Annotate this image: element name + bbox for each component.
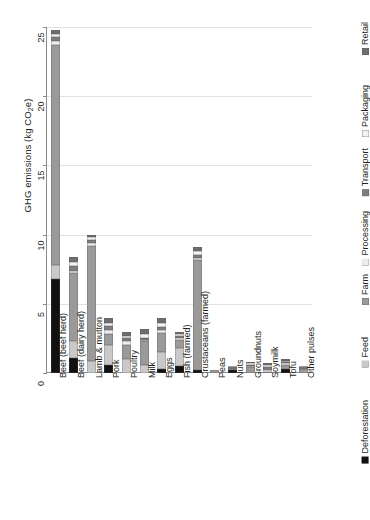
x-axis-category-label: Crustaceans (farmed) xyxy=(201,291,210,378)
chart-legend: DeforestationFeedFarmProcessingTransport… xyxy=(333,0,363,520)
x-axis-category-label: Groundnuts xyxy=(254,331,263,378)
legend-label: Farm xyxy=(361,274,370,295)
legend-swatch-icon xyxy=(362,361,369,368)
bar-segment xyxy=(51,265,60,279)
y-axis-title-post: e) xyxy=(22,99,33,108)
x-axis-category-label: Tofu xyxy=(289,361,298,378)
x-axis-category-label: Beef (dairy herd) xyxy=(77,311,86,378)
legend-item[interactable]: Retail xyxy=(361,22,370,55)
legend-label: Transport xyxy=(361,148,370,186)
x-axis-category-label: Lamb & mutton xyxy=(95,317,104,378)
legend-item[interactable]: Transport xyxy=(361,148,370,196)
legend-label: Deforestation xyxy=(361,400,370,454)
y-axis-tick-label: 20 xyxy=(37,96,46,118)
x-axis-category-label: Pork xyxy=(112,359,121,378)
x-axis-category-label: Beef (beef herd) xyxy=(59,313,68,378)
x-axis-category-label: Poultry xyxy=(130,350,139,378)
x-axis-category-label: Other pulses xyxy=(307,327,316,378)
x-axis-category-label: Eggs xyxy=(165,357,174,378)
x-axis-category-label: Peas xyxy=(218,357,227,378)
legend-swatch-icon xyxy=(362,130,369,137)
legend-item[interactable]: Farm xyxy=(361,274,370,305)
x-axis-category-labels: Beef (beef herd)Beef (dairy herd)Lamb & … xyxy=(47,376,312,516)
x-axis-category-label: Soymilk xyxy=(271,346,280,378)
y-axis-title: GHG emissions (kg CO2e) xyxy=(22,71,33,241)
bar-segment xyxy=(104,334,113,345)
legend-label: Packaging xyxy=(361,85,370,127)
legend-swatch-icon xyxy=(362,189,369,196)
legend-label: Processing xyxy=(361,211,370,256)
y-axis-tick-label: 25 xyxy=(37,27,46,49)
bar-segment xyxy=(157,333,166,352)
legend-swatch-icon xyxy=(362,298,369,305)
y-axis-tick-label: 5 xyxy=(37,303,46,325)
x-axis-category-label: Milk xyxy=(148,362,157,378)
legend-label: Retail xyxy=(361,22,370,45)
legend-swatch-icon xyxy=(362,48,369,55)
legend-swatch-icon xyxy=(362,259,369,266)
x-axis-category-label: Fish (farmed) xyxy=(183,324,192,378)
y-axis-title-pre: GHG emissions (kg CO xyxy=(22,111,33,212)
plot-area: 0510152025 xyxy=(47,27,312,373)
y-axis-title-subscript: 2 xyxy=(26,107,33,111)
legend-item[interactable]: Deforestation xyxy=(361,400,370,464)
legend-item[interactable]: Feed xyxy=(361,337,370,368)
y-axis-tick-label: 15 xyxy=(37,165,46,187)
legend-item[interactable]: Packaging xyxy=(361,85,370,137)
y-axis-tick-label: 10 xyxy=(37,234,46,256)
legend-item[interactable]: Processing xyxy=(361,211,370,266)
legend-label: Feed xyxy=(361,337,370,358)
x-axis-category-label: Nuts xyxy=(236,359,245,378)
y-axis-tick-label: 0 xyxy=(37,373,46,395)
bars-layer xyxy=(47,27,312,373)
bar-segment xyxy=(51,45,60,265)
legend-swatch-icon xyxy=(362,457,369,464)
